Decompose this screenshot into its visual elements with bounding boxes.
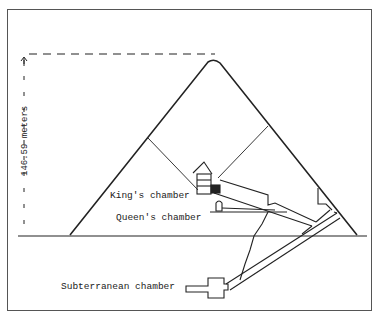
- pyramid-diagram: 146.59 meters King's chamber Queen': [0, 0, 382, 319]
- queens-chamber-label: Queen's chamber: [116, 212, 202, 223]
- height-label: 146.59 meters: [20, 106, 30, 176]
- pyramid-outline: [70, 60, 357, 235]
- kings-chamber-label: King's chamber: [110, 190, 190, 201]
- right-diagonal-line: [218, 126, 268, 178]
- subterranean-chamber-label: Subterranean chamber: [61, 281, 175, 292]
- arrow-up-icon: [21, 57, 27, 66]
- passages: [210, 180, 340, 290]
- left-diagonal-line: [148, 138, 198, 190]
- kings-chamber-shape: [193, 162, 220, 194]
- subterranean-chamber-shape: [186, 278, 228, 298]
